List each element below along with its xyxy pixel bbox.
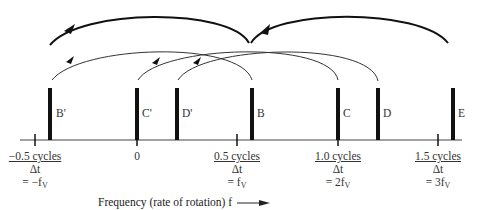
tick-label-pos15: 1.5 cycles Δt = 3fV: [398, 150, 477, 192]
arc-thick-left: [50, 17, 249, 45]
right-arrow-icon: [237, 199, 271, 207]
eq-prefix: = −f: [22, 176, 42, 188]
tick-equation: = −fV: [0, 176, 75, 192]
eq-subscript: V: [345, 181, 351, 190]
arc-b-to-b-prime: [52, 52, 252, 80]
tick-label-zero: 0: [97, 150, 177, 163]
eq-prefix: = f: [228, 176, 241, 188]
tick-cycles: −0.5 cycles: [0, 150, 75, 163]
bar-label-b-prime: B': [56, 107, 66, 119]
arc-c-to-c-prime: [138, 52, 338, 80]
tick-equation: = fV: [197, 176, 277, 192]
tick-label-pos05: 0.5 cycles Δt = fV: [197, 150, 277, 192]
bar-label-e: E: [458, 107, 465, 119]
arrowhead-b-prime: [66, 56, 74, 64]
axis-label: Frequency (rate of rotation) f: [98, 196, 271, 208]
arc-d-to-d-prime: [178, 52, 378, 81]
arc-thick-right: [251, 17, 448, 43]
bar-label-d: D: [383, 107, 391, 119]
bar-label-c-prime: C': [142, 107, 152, 119]
tick-delta: Δt: [398, 163, 477, 176]
bar-label-b: B: [257, 107, 265, 119]
bar-label-d-prime: D': [182, 107, 192, 119]
eq-subscript: V: [42, 181, 48, 190]
axis-label-text: Frequency (rate of rotation) f: [98, 196, 232, 208]
tick-cycles: 1.0 cycles: [298, 150, 378, 163]
tick-equation: = 3fV: [398, 176, 477, 192]
eq-prefix: = 3f: [426, 176, 445, 188]
tick-equation: = 2fV: [298, 176, 378, 192]
tick-label-neg05: −0.5 cycles Δt = −fV: [0, 150, 75, 192]
tick-delta: Δt: [197, 163, 277, 176]
tick-cycles: 0.5 cycles: [197, 150, 277, 163]
arrowhead-c-prime: [152, 57, 160, 65]
tick-label-pos10: 1.0 cycles Δt = 2fV: [298, 150, 378, 192]
tick-delta: Δt: [298, 163, 378, 176]
eq-subscript: V: [445, 181, 451, 190]
tick-delta: Δt: [0, 163, 75, 176]
bar-label-c: C: [343, 107, 351, 119]
arrowhead-d-prime: [193, 57, 201, 65]
arrowhead-thick-right: [260, 24, 270, 35]
tick-cycles: 1.5 cycles: [398, 150, 477, 163]
eq-prefix: = 2f: [326, 176, 345, 188]
eq-subscript: V: [241, 181, 247, 190]
tick-cycles: 0: [97, 150, 177, 163]
